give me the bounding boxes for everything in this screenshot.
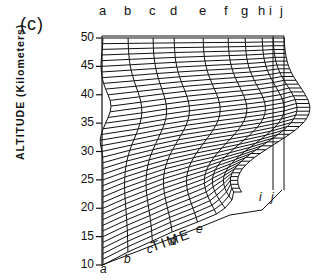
y-tick-label: 45	[72, 58, 94, 72]
y-tick-label: 30	[72, 144, 94, 158]
top-curve-label: j	[280, 3, 283, 18]
top-curve-label: a	[99, 3, 106, 18]
y-tick-label: 25	[72, 172, 94, 186]
top-curve-label: c	[149, 3, 156, 18]
bottom-curve-label: b	[124, 252, 131, 266]
y-tick-label: 20	[72, 200, 94, 214]
top-curve-label: g	[241, 3, 248, 18]
top-curve-label: e	[199, 3, 206, 18]
bottom-curve-label: e	[196, 222, 203, 236]
y-tick-label: 50	[72, 30, 94, 44]
top-curve-label: i	[269, 3, 272, 18]
y-tick-label: 35	[72, 115, 94, 129]
top-curve-label: f	[224, 3, 228, 18]
top-curve-label: d	[170, 3, 177, 18]
y-tick-label: 10	[72, 257, 94, 271]
bottom-curve-label: a	[100, 262, 107, 276]
top-curve-label: h	[258, 3, 265, 18]
y-tick-label: 40	[72, 87, 94, 101]
wireframe-mesh	[100, 36, 310, 265]
top-curve-label: b	[124, 3, 131, 18]
bottom-right-label: j	[271, 190, 274, 204]
y-axis-label: ALTITUDE (Kilometers)	[14, 0, 26, 160]
bottom-right-label: i	[259, 190, 262, 204]
y-tick-label: 15	[72, 229, 94, 243]
